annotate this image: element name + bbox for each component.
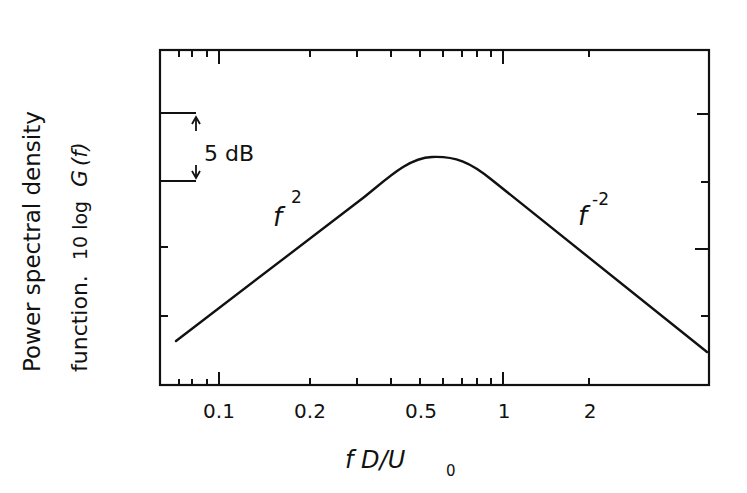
x-tick-label-0.1: 0.1 (203, 399, 235, 423)
y-axis-label: Power spectral density (19, 111, 45, 372)
spectrum-curve (176, 157, 707, 352)
scale-bar-label: 5 dB (204, 141, 254, 166)
y-axis-label-line2-d: (f) (68, 142, 92, 166)
x-tick-label-0.5: 0.5 (405, 399, 437, 423)
annotation-fminus2-sup: -2 (592, 189, 609, 209)
y-axis-ticks-left (160, 247, 168, 316)
annotation-f2-sup: 2 (291, 187, 302, 207)
x-tick-label-1: 1 (498, 399, 511, 423)
y-axis-label-line2-group: function. 10 log G (f) (67, 142, 92, 372)
x-axis-ticks-top (179, 50, 589, 64)
scale-bar-5db (160, 113, 200, 181)
annotation-fminus2-base: f (578, 201, 591, 231)
y-axis-ticks-right (695, 114, 709, 316)
x-axis-label-subscript: 0 (446, 462, 456, 480)
x-axis-ticks-bottom (179, 372, 589, 385)
x-axis-label: f D/U (345, 446, 406, 474)
x-tick-label-0.2: 0.2 (294, 399, 326, 423)
y-axis-label-line2-b: 10 log (69, 201, 91, 260)
plot-frame (160, 50, 709, 385)
y-axis-label-line2-a: function. (67, 275, 92, 372)
x-tick-label-2: 2 (584, 399, 597, 423)
chart-canvas: 5 dB f 2 f -2 0.1 0.2 0.5 1 2 f D/U 0 Po… (0, 0, 747, 493)
annotation-f2-base: f (273, 202, 286, 232)
y-axis-label-line2-c: G (67, 170, 92, 187)
y-axis-label-line1: Power spectral density (19, 111, 45, 372)
